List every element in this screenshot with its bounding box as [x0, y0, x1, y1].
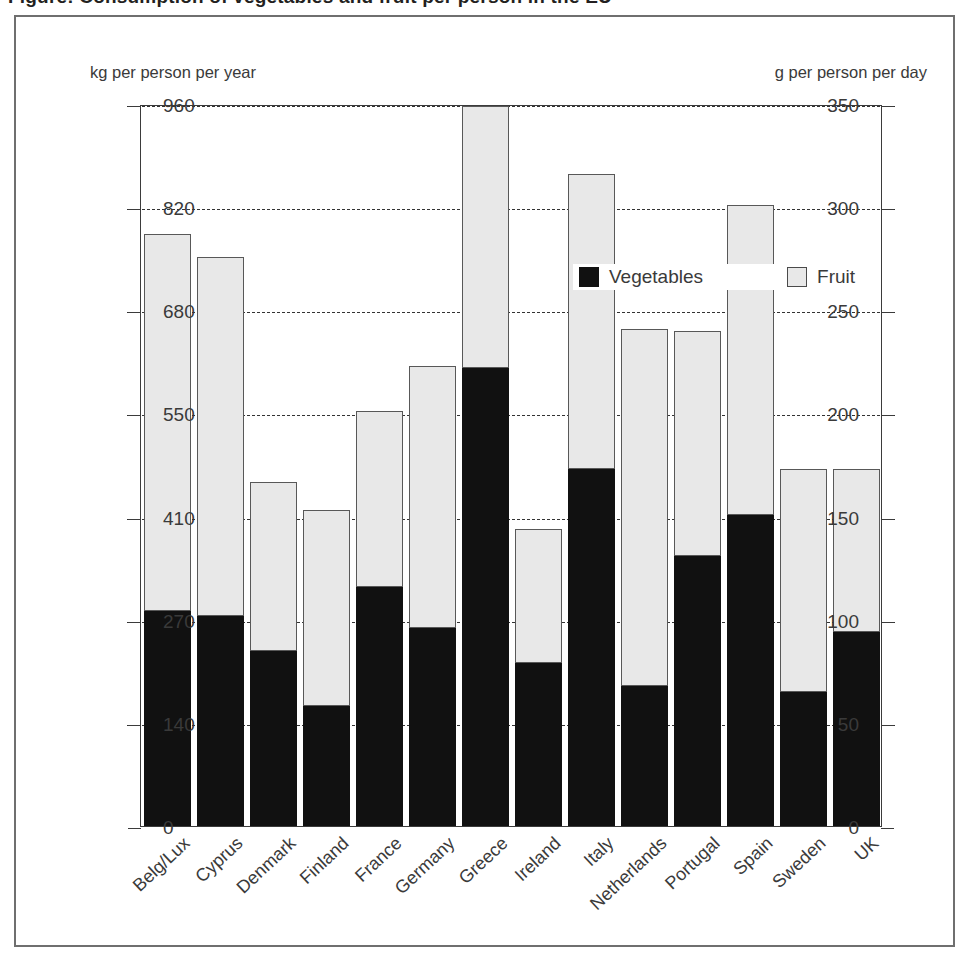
bar-segment-fruit[interactable] [568, 174, 614, 469]
legend-item-fruit[interactable]: Fruit [787, 266, 855, 288]
bar-segment-fruit[interactable] [356, 411, 402, 586]
right-axis-unit-caption: g per person per day [775, 63, 927, 82]
bar-group[interactable] [674, 104, 720, 826]
left-axis-unit-caption: kg per person per year [90, 63, 256, 82]
axis-tick-right [881, 622, 894, 623]
axis-tick-left [128, 725, 141, 726]
bar-segment-vegetables[interactable] [462, 368, 508, 826]
bar-group[interactable] [515, 104, 561, 826]
category-label: Belg/Lux [129, 833, 195, 896]
bar-group[interactable] [356, 104, 402, 826]
bar-group[interactable] [727, 104, 773, 826]
bar-segment-vegetables[interactable] [515, 663, 561, 826]
bar-segment-fruit[interactable] [780, 469, 826, 692]
bar-group[interactable] [621, 104, 667, 826]
bar-segment-fruit[interactable] [515, 529, 561, 663]
axis-tick-left [128, 415, 141, 416]
category-label: Spain [730, 833, 778, 880]
bar-segment-fruit[interactable] [833, 469, 879, 632]
bar-segment-vegetables[interactable] [356, 587, 402, 826]
right-axis-tick-label: 960 [163, 96, 195, 115]
right-axis-tick-label: 410 [163, 509, 195, 528]
axis-tick-left [128, 312, 141, 313]
bar-segment-vegetables[interactable] [409, 628, 455, 826]
left-axis-tick-label: 300 [827, 199, 859, 218]
bar-segment-vegetables[interactable] [727, 515, 773, 826]
left-axis-tick-label: 350 [827, 96, 859, 115]
right-axis-tick-label: 270 [163, 612, 195, 631]
bar-segment-vegetables[interactable] [621, 686, 667, 826]
bar-group[interactable] [568, 104, 614, 826]
category-label: Sweden [769, 833, 831, 893]
category-label: Denmark [233, 833, 301, 898]
legend-swatch-vegetables-icon [579, 267, 599, 287]
left-axis-tick-label: 200 [827, 405, 859, 424]
axis-tick-left [128, 209, 141, 210]
axis-tick-right [881, 725, 894, 726]
right-axis-tick-label: 140 [163, 715, 195, 734]
axis-tick-left [128, 106, 141, 107]
bar-segment-fruit[interactable] [197, 257, 243, 616]
bar-segment-fruit[interactable] [462, 106, 508, 368]
category-label: Finland [296, 833, 354, 889]
bar-segment-fruit[interactable] [621, 329, 667, 686]
axis-tick-right [881, 415, 894, 416]
category-label: Portugal [661, 833, 724, 894]
category-axis-labels: Belg/LuxCyprusDenmarkFinlandFranceGerman… [140, 829, 882, 939]
right-axis-tick-label: 820 [163, 199, 195, 218]
bar-segment-fruit[interactable] [409, 366, 455, 628]
bar-group[interactable] [462, 104, 508, 826]
bar-segment-vegetables[interactable] [674, 556, 720, 826]
left-axis-tick-label: 100 [827, 612, 859, 631]
axis-tick-right [881, 519, 894, 520]
chart-legend: Vegetables Fruit [573, 264, 861, 290]
category-label: Greece [455, 833, 512, 889]
right-axis-tick-label: 680 [163, 302, 195, 321]
plot-area: 050100150200250300350 014027041055068082… [140, 105, 882, 827]
category-label: Italy [580, 833, 618, 871]
left-axis-tick-label: 250 [827, 302, 859, 321]
axis-tick-right [881, 106, 894, 107]
bar-group[interactable] [409, 104, 455, 826]
right-axis-tick-label: 550 [163, 405, 195, 424]
bars-layer [141, 106, 881, 826]
bar-group[interactable] [197, 104, 243, 826]
bar-segment-fruit[interactable] [250, 482, 296, 651]
axis-tick-right [881, 312, 894, 313]
axis-tick-right [881, 209, 894, 210]
legend-item-vegetables[interactable]: Vegetables [579, 266, 703, 288]
category-label: Ireland [511, 833, 566, 886]
left-axis-tick-label: 50 [838, 715, 859, 734]
bar-segment-vegetables[interactable] [568, 469, 614, 826]
bar-group[interactable] [250, 104, 296, 826]
figure-title-strip: Figure: Consumption of vegetables and fr… [0, 0, 971, 13]
axis-tick-right [881, 828, 894, 829]
bar-group[interactable] [303, 104, 349, 826]
category-label: UK [851, 833, 884, 865]
bar-segment-vegetables[interactable] [197, 616, 243, 826]
legend-swatch-fruit-icon [787, 267, 807, 287]
bar-segment-vegetables[interactable] [780, 692, 826, 826]
plot-inner [141, 106, 881, 826]
bar-segment-vegetables[interactable] [303, 706, 349, 826]
page-title: Figure: Consumption of vegetables and fr… [8, 0, 612, 8]
bar-segment-fruit[interactable] [303, 510, 349, 706]
bar-segment-fruit[interactable] [674, 331, 720, 556]
bar-segment-vegetables[interactable] [250, 651, 296, 826]
axis-tick-left [128, 622, 141, 623]
figure-frame: kg per person per year g per person per … [14, 15, 955, 947]
left-axis-tick-label: 150 [827, 509, 859, 528]
bar-group[interactable] [780, 104, 826, 826]
legend-label-vegetables: Vegetables [609, 266, 703, 288]
legend-label-fruit: Fruit [817, 266, 855, 288]
bar-segment-fruit[interactable] [727, 205, 773, 514]
axis-tick-left [128, 519, 141, 520]
